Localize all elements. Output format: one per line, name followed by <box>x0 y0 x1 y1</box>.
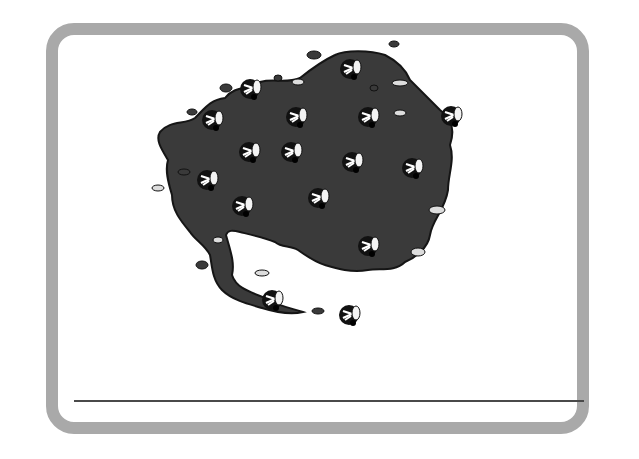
answer-line <box>74 400 584 402</box>
fly-swarm-illustration <box>0 0 639 459</box>
fly-icon <box>339 305 360 326</box>
